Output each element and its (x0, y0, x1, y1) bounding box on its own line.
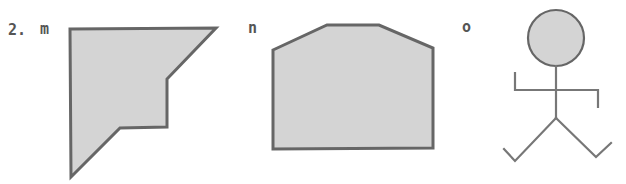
stick-figure-right-leg (556, 118, 611, 157)
figure-m-shape (70, 28, 216, 177)
stick-figure-left-leg (504, 118, 556, 161)
figure-n-shape (273, 25, 433, 149)
stick-figure-head (528, 10, 584, 66)
figure-o-stick-figure (504, 10, 611, 161)
figures-canvas (0, 0, 626, 184)
